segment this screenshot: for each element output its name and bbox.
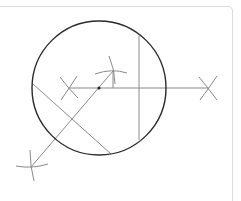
diagonal-ray (31, 71, 113, 167)
geometric-construction-diagram (0, 0, 241, 201)
center-point (98, 87, 101, 90)
top-arc-vertical (109, 56, 115, 84)
